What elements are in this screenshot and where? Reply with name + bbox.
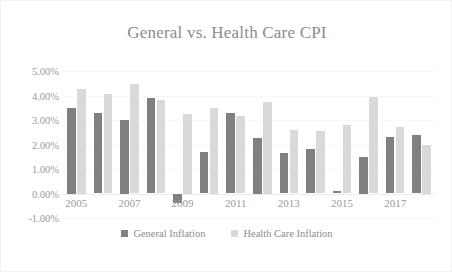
chart-legend: General InflationHealth Care Inflation bbox=[1, 228, 452, 239]
legend-item[interactable]: General Inflation bbox=[121, 228, 205, 239]
y-axis: 5.00%4.00%3.00%2.00%1.00%0.00%-1.00% bbox=[1, 71, 59, 218]
legend-swatch-icon bbox=[231, 230, 238, 237]
bar-general-inflation[interactable] bbox=[412, 135, 421, 194]
x-axis-tick-label: 2009 bbox=[172, 197, 194, 209]
gridline bbox=[63, 218, 435, 219]
bar-general-inflation[interactable] bbox=[94, 113, 103, 194]
bar-group bbox=[196, 71, 223, 218]
bar-health-care-inflation[interactable] bbox=[369, 97, 378, 194]
legend-item[interactable]: Health Care Inflation bbox=[231, 228, 332, 239]
bars-layer bbox=[63, 71, 435, 218]
bar-general-inflation[interactable] bbox=[226, 113, 235, 194]
bar-general-inflation[interactable] bbox=[333, 191, 342, 193]
x-axis: 2005200720092011201320152017 bbox=[63, 197, 435, 215]
bar-group bbox=[382, 71, 409, 218]
bar-group bbox=[169, 71, 196, 218]
bar-group bbox=[90, 71, 117, 218]
bar-general-inflation[interactable] bbox=[67, 108, 76, 194]
bar-group bbox=[63, 71, 90, 218]
y-axis-tick-label: 1.00% bbox=[5, 164, 59, 175]
bar-health-care-inflation[interactable] bbox=[183, 114, 192, 194]
bar-health-care-inflation[interactable] bbox=[290, 130, 299, 194]
legend-swatch-icon bbox=[121, 230, 128, 237]
bar-general-inflation[interactable] bbox=[200, 152, 209, 194]
bar-group bbox=[249, 71, 276, 218]
bar-general-inflation[interactable] bbox=[306, 149, 315, 193]
y-axis-tick-label: -1.00% bbox=[5, 213, 59, 224]
bar-general-inflation[interactable] bbox=[386, 137, 395, 193]
bar-health-care-inflation[interactable] bbox=[104, 94, 113, 193]
bar-health-care-inflation[interactable] bbox=[316, 131, 325, 193]
bar-health-care-inflation[interactable] bbox=[157, 100, 166, 193]
x-axis-tick-label: 2011 bbox=[225, 197, 247, 209]
y-axis-tick-label: 5.00% bbox=[5, 66, 59, 77]
y-axis-tick-label: 4.00% bbox=[5, 90, 59, 101]
bar-general-inflation[interactable] bbox=[280, 153, 289, 193]
bar-group bbox=[408, 71, 435, 218]
y-axis-tick-label: 2.00% bbox=[5, 139, 59, 150]
legend-label: Health Care Inflation bbox=[243, 228, 332, 239]
bar-group bbox=[302, 71, 329, 218]
y-axis-tick-label: 0.00% bbox=[5, 188, 59, 199]
chart-title: General vs. Health Care CPI bbox=[1, 23, 452, 43]
plot-area bbox=[63, 71, 435, 218]
x-axis-tick-label: 2013 bbox=[278, 197, 300, 209]
bar-health-care-inflation[interactable] bbox=[263, 102, 272, 194]
bar-health-care-inflation[interactable] bbox=[210, 108, 219, 194]
chart-container: General vs. Health Care CPI 5.00%4.00%3.… bbox=[0, 0, 452, 272]
bar-health-care-inflation[interactable] bbox=[77, 89, 86, 193]
bar-health-care-inflation[interactable] bbox=[343, 125, 352, 194]
bar-group bbox=[276, 71, 303, 218]
y-axis-tick-label: 3.00% bbox=[5, 115, 59, 126]
bar-health-care-inflation[interactable] bbox=[396, 127, 405, 193]
x-axis-tick-label: 2007 bbox=[118, 197, 140, 209]
bar-health-care-inflation[interactable] bbox=[422, 145, 431, 194]
bar-group bbox=[355, 71, 382, 218]
bar-group bbox=[222, 71, 249, 218]
bar-general-inflation[interactable] bbox=[120, 120, 129, 194]
x-axis-tick-label: 2017 bbox=[384, 197, 406, 209]
x-axis-tick-label: 2005 bbox=[65, 197, 87, 209]
bar-general-inflation[interactable] bbox=[253, 138, 262, 193]
bar-general-inflation[interactable] bbox=[359, 157, 368, 194]
bar-health-care-inflation[interactable] bbox=[236, 116, 245, 193]
bar-general-inflation[interactable] bbox=[147, 98, 156, 194]
bar-group bbox=[329, 71, 356, 218]
bar-health-care-inflation[interactable] bbox=[130, 84, 139, 193]
bar-group bbox=[143, 71, 170, 218]
legend-label: General Inflation bbox=[133, 228, 205, 239]
x-axis-tick-label: 2015 bbox=[331, 197, 353, 209]
bar-group bbox=[116, 71, 143, 218]
